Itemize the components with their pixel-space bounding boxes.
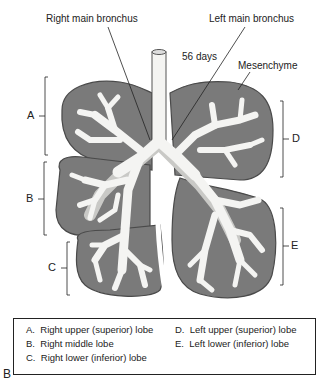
label-age: 56 days [182, 51, 217, 62]
label-right-main-bronchus: Right main bronchus [46, 13, 138, 24]
legend-item-B: B. Right middle lobe [26, 338, 114, 349]
left-lower-lobe [172, 178, 276, 298]
marker-C: C [48, 261, 56, 273]
legend-item-E: E. Left lower (inferior) lobe [175, 338, 289, 349]
legend-box: A. Right upper (superior) lobe B. Right … [13, 318, 316, 375]
legend-item-C: C. Right lower (inferior) lobe [26, 352, 147, 363]
marker-E: E [291, 239, 298, 251]
bracket-E [280, 208, 289, 285]
legend-item-D: D. Left upper (superior) lobe [175, 324, 296, 335]
marker-D: D [292, 132, 300, 144]
label-left-main-bronchus: Left main bronchus [209, 13, 294, 24]
trachea [152, 52, 166, 147]
marker-B: B [26, 192, 33, 204]
label-mesenchyme: Mesenchyme [238, 60, 297, 71]
bracket-A [39, 77, 48, 155]
panel-label: B [3, 367, 11, 381]
marker-A: A [27, 109, 34, 121]
bracket-C [61, 242, 70, 295]
bracket-B [38, 162, 47, 235]
bracket-D [280, 101, 289, 177]
legend-item-A: A. Right upper (superior) lobe [26, 324, 153, 335]
